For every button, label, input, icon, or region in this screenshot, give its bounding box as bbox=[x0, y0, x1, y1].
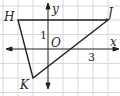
vertex-label-h: H bbox=[3, 10, 15, 24]
tick-label-y-1: 1 bbox=[40, 29, 47, 42]
y-axis-label: y bbox=[51, 2, 59, 16]
coordinate-plane: H J K y x O 1 3 bbox=[0, 0, 120, 96]
vertex-label-j: J bbox=[105, 6, 114, 20]
y-axis bbox=[46, 3, 50, 89]
x-axis-label: x bbox=[110, 35, 117, 49]
origin-label: O bbox=[51, 36, 61, 50]
tick-label-x-3: 3 bbox=[88, 51, 95, 64]
vertex-label-k: K bbox=[19, 78, 30, 92]
